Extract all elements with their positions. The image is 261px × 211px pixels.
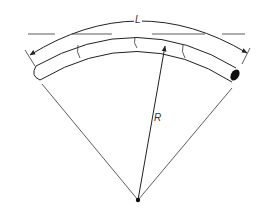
arc-length-dimension xyxy=(25,21,250,66)
radial-lines xyxy=(42,84,232,200)
center-point xyxy=(136,198,140,202)
tube-end-cap xyxy=(229,68,242,82)
arc-length-label: L xyxy=(134,15,142,25)
curved-tube xyxy=(34,37,242,82)
bent-tube-diagram xyxy=(0,0,261,211)
radius-label: R xyxy=(153,113,162,123)
radius-arrow xyxy=(138,46,165,200)
